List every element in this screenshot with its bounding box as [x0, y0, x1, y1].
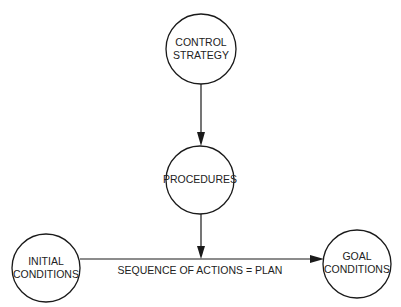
- node-label-line-1: PROCEDURES: [163, 173, 237, 185]
- node-label-line-1: CONTROL: [175, 36, 226, 48]
- edge-label-sequence-plan: SEQUENCE OF ACTIONS = PLAN: [118, 264, 283, 276]
- node-label-line-1: INITIAL: [28, 255, 64, 267]
- node-control-strategy: CONTROL STRATEGY: [166, 14, 236, 84]
- node-label-line-2: CONDITIONS: [324, 263, 390, 275]
- node-procedures: PROCEDURES: [163, 146, 237, 214]
- node-label-line-2: CONDITIONS: [13, 268, 79, 280]
- node-initial-conditions: INITIAL CONDITIONS: [12, 234, 80, 302]
- node-goal-conditions: GOAL CONDITIONS: [323, 230, 391, 298]
- edge-procedures-to-sequence: [197, 214, 205, 259]
- edge-initial-to-goal: SEQUENCE OF ACTIONS = PLAN: [80, 255, 324, 276]
- arrow-right-icon: [310, 255, 324, 263]
- arrow-down-icon: [197, 132, 205, 146]
- node-label-line-1: GOAL: [342, 250, 371, 262]
- edge-control-to-procedures: [197, 84, 205, 146]
- arrow-down-icon: [197, 246, 205, 259]
- planning-diagram: SEQUENCE OF ACTIONS = PLAN CONTROL STRAT…: [0, 0, 401, 307]
- node-label-line-2: STRATEGY: [173, 49, 229, 61]
